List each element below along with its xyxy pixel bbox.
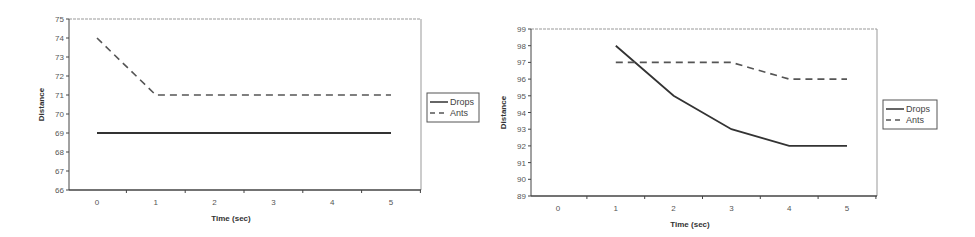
x-tick-label: 2 bbox=[671, 204, 676, 213]
charts-canvas: 66676869707172737475012345Time (sec)Dist… bbox=[0, 0, 975, 237]
y-tick-label: 68 bbox=[55, 148, 64, 157]
legend-label-ants: Ants bbox=[906, 115, 925, 125]
y-tick-label: 75 bbox=[55, 15, 64, 24]
y-tick-label: 93 bbox=[517, 125, 526, 134]
x-tick-label: 1 bbox=[614, 204, 619, 213]
x-tick-label: 0 bbox=[95, 198, 100, 207]
y-tick-label: 99 bbox=[517, 25, 526, 34]
legend: DropsAnts bbox=[427, 93, 479, 122]
x-tick-label: 3 bbox=[729, 204, 734, 213]
y-tick-label: 69 bbox=[55, 129, 64, 138]
chart-2: 8990919293949596979899012345Time (sec)Di… bbox=[499, 25, 937, 229]
chart-1: 66676869707172737475012345Time (sec)Dist… bbox=[37, 15, 479, 223]
x-tick-label: 5 bbox=[389, 198, 394, 207]
series-ants bbox=[97, 38, 391, 95]
y-tick-label: 71 bbox=[55, 91, 64, 100]
x-tick-label: 4 bbox=[787, 204, 792, 213]
x-tick-label: 5 bbox=[845, 204, 850, 213]
legend-label-drops: Drops bbox=[906, 104, 931, 114]
y-tick-label: 73 bbox=[55, 53, 64, 62]
y-tick-label: 91 bbox=[517, 159, 526, 168]
y-tick-label: 89 bbox=[517, 192, 526, 201]
x-tick-label: 4 bbox=[330, 198, 335, 207]
y-tick-label: 66 bbox=[55, 186, 64, 195]
y-tick-label: 70 bbox=[55, 110, 64, 119]
y-tick-label: 97 bbox=[517, 58, 526, 67]
x-tick-label: 0 bbox=[556, 204, 561, 213]
y-tick-label: 95 bbox=[517, 92, 526, 101]
y-tick-label: 67 bbox=[55, 167, 64, 176]
x-tick-label: 1 bbox=[154, 198, 159, 207]
y-tick-label: 92 bbox=[517, 142, 526, 151]
y-tick-label: 94 bbox=[517, 109, 526, 118]
y-tick-label: 96 bbox=[517, 75, 526, 84]
y-tick-label: 90 bbox=[517, 175, 526, 184]
y-tick-label: 98 bbox=[517, 42, 526, 51]
y-axis-title: Distance bbox=[499, 95, 508, 129]
x-axis-title: Time (sec) bbox=[670, 220, 710, 229]
x-tick-label: 2 bbox=[212, 198, 217, 207]
y-tick-label: 72 bbox=[55, 72, 64, 81]
x-axis-title: Time (sec) bbox=[211, 214, 251, 223]
x-tick-label: 3 bbox=[271, 198, 276, 207]
y-tick-label: 74 bbox=[55, 34, 64, 43]
legend-label-ants: Ants bbox=[450, 108, 469, 118]
series-drops bbox=[616, 46, 847, 146]
legend-label-drops: Drops bbox=[450, 97, 475, 107]
y-axis-title: Distance bbox=[37, 87, 46, 121]
legend: DropsAnts bbox=[883, 100, 937, 129]
